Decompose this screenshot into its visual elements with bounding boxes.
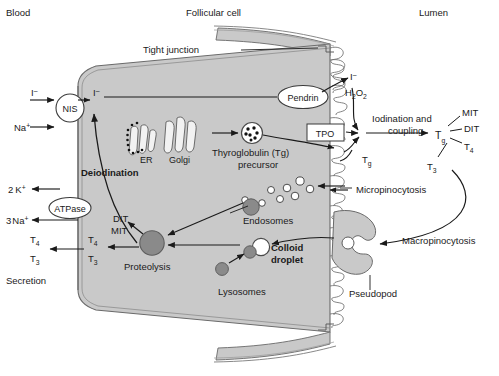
tg-lumen-label: Tg bbox=[362, 154, 372, 168]
colloid-droplet-label-line1: Colloid bbox=[271, 242, 303, 253]
t4-lumen-label: T4 bbox=[464, 141, 474, 154]
svg-text:Tg: Tg bbox=[362, 154, 372, 168]
atpase-label: ATPase bbox=[54, 204, 85, 214]
diagram-canvas: Blood Follicular cell Lumen Tight juncti… bbox=[0, 0, 499, 376]
sodium-in-label: Na+ bbox=[14, 122, 30, 134]
svg-text:2K+: 2K+ bbox=[8, 184, 26, 196]
iodide-lumen-label: I– bbox=[350, 71, 357, 83]
t3-blood-label: T3 bbox=[30, 253, 40, 266]
thyroglobulin-precursor-vesicle bbox=[242, 123, 263, 144]
thyroid-follicular-cell-figure: Blood Follicular cell Lumen Tight juncti… bbox=[0, 0, 499, 376]
t3-lumen-label: T3 bbox=[427, 161, 437, 174]
mit-lumen-label: MIT bbox=[462, 107, 479, 118]
micropinocytosis-label: Micropinocytosis bbox=[356, 184, 426, 195]
pseudopod-structure bbox=[332, 210, 376, 274]
t4-blood-label: T4 bbox=[30, 234, 40, 247]
er-label: ER bbox=[140, 155, 153, 165]
iodination-coupling-label-line2: coupling bbox=[388, 125, 423, 136]
pendrin-label: Pendrin bbox=[287, 93, 318, 103]
macropinocytosis-label: Macropinocytosis bbox=[402, 235, 476, 246]
thyroglobulin-precursor-label-line1: Thyroglobulin (Tg) bbox=[212, 147, 289, 158]
endosomes-label: Endosomes bbox=[243, 215, 293, 226]
dit-lumen-label: DIT bbox=[464, 123, 480, 134]
hydrogen-peroxide-label: H2O2 bbox=[345, 87, 367, 100]
proteolysis-vesicle bbox=[140, 231, 164, 255]
svg-text:H2O2: H2O2 bbox=[345, 87, 367, 100]
compartment-label-lumen: Lumen bbox=[419, 7, 448, 18]
sodium-out-label: 3Na+ bbox=[6, 215, 28, 227]
lysosome-vesicle bbox=[216, 263, 229, 276]
secretion-label: Secretion bbox=[6, 275, 46, 286]
colloid-droplet-label-line2: droplet bbox=[271, 254, 304, 265]
compartment-label-blood: Blood bbox=[6, 7, 30, 18]
svg-text:Na+: Na+ bbox=[14, 122, 30, 134]
iodide-blood-label: I– bbox=[31, 87, 38, 99]
svg-text:I–: I– bbox=[350, 71, 357, 83]
compartment-label-follicular-cell: Follicular cell bbox=[186, 7, 241, 18]
dit-cell-label: DIT bbox=[113, 213, 129, 224]
deiodination-label: Deiodination bbox=[81, 167, 139, 178]
iodination-coupling-label-line1: Iodination and bbox=[372, 113, 432, 124]
svg-text:I–: I– bbox=[31, 87, 38, 99]
svg-text:T4: T4 bbox=[30, 234, 40, 247]
nis-label: NIS bbox=[62, 104, 77, 114]
thyroglobulin-precursor-label-line2: precursor bbox=[238, 159, 278, 170]
golgi-label: Golgi bbox=[169, 155, 190, 165]
svg-text:T3: T3 bbox=[427, 161, 437, 174]
proteolysis-label: Proteolysis bbox=[124, 261, 171, 272]
tg-product-label: Tg bbox=[435, 129, 445, 145]
golgi-apparatus bbox=[164, 117, 196, 153]
svg-text:3Na+: 3Na+ bbox=[6, 215, 28, 227]
tpo-label: TPO bbox=[316, 129, 335, 139]
lysosomes-label: Lysosomes bbox=[218, 286, 266, 297]
svg-text:T3: T3 bbox=[30, 253, 40, 266]
tight-junction-label: Tight junction bbox=[143, 44, 199, 55]
pseudopod-label: Pseudopod bbox=[349, 288, 397, 299]
svg-text:T4: T4 bbox=[464, 141, 474, 154]
svg-text:Tg: Tg bbox=[435, 129, 445, 145]
potassium-out-label: 2K+ bbox=[8, 184, 26, 196]
mit-cell-label: MIT bbox=[111, 225, 128, 236]
